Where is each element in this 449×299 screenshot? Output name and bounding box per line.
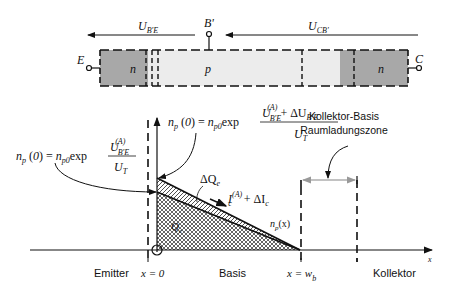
x-wb-label: x = wb <box>286 267 316 283</box>
base-region-label: p <box>204 62 211 76</box>
x-axis-label: x <box>427 255 432 264</box>
equation-np0: np (0) = np0exp <box>16 149 87 165</box>
transistor-band: n p n E B' C UB'E UCB' <box>76 16 424 86</box>
kollektor-label: Kollektor <box>373 267 416 279</box>
space-charge-label-1: Kollektor-Basis <box>309 110 379 122</box>
basis-label: Basis <box>219 267 246 279</box>
equation-np0-delta: np (0) = np0exp <box>168 115 239 131</box>
collector-terminal <box>417 66 422 71</box>
emitter-terminal-label: E <box>76 53 85 67</box>
collector-n-region <box>340 50 408 86</box>
equation-np0-numerator: UB'E(A) <box>110 137 129 157</box>
x-zero-label: x = 0 <box>140 267 165 279</box>
base-terminal-label: B' <box>204 16 214 30</box>
collector-terminal-label: C <box>415 52 424 66</box>
space-charge-label-2: Raumladungszone <box>300 124 388 136</box>
emitter-label: Emitter <box>94 267 129 279</box>
emitter-region-label: n <box>130 62 136 76</box>
voltage-cb-label: UCB' <box>308 19 329 35</box>
base-p-region <box>148 50 340 86</box>
emitter-terminal <box>87 66 92 71</box>
voltage-be-label: UB'E <box>138 19 158 35</box>
equation-np0-delta-numerator: UB'E(A) + ΔUB'E <box>262 103 318 123</box>
carrier-profile-plot: x Kollektor-Basis Raumladungszone np (0)… <box>16 103 432 283</box>
np-x-label: np(x) <box>270 218 290 232</box>
emitter-n-region <box>100 50 148 86</box>
base-terminal <box>207 32 212 37</box>
collector-current-label: I(A)c + ΔIc <box>227 190 269 208</box>
equation-np0-denominator: UT <box>114 160 128 176</box>
delta-qe-label: ΔQe <box>200 172 220 188</box>
collector-region-label: n <box>378 62 384 76</box>
bjt-diagram: n p n E B' C UB'E UCB' x <box>0 0 449 299</box>
